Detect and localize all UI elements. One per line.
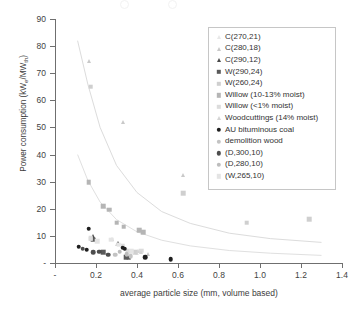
legend-item[interactable]: (W,265,10) [212,170,333,182]
legend-marker-square-icon [212,170,225,181]
legend-item-label: Woodcuttings (14% moist) [225,114,318,122]
data-point-square [114,221,119,226]
data-point-square [95,239,100,244]
y-axis-line [55,19,56,264]
legend-marker-circle-icon [212,159,225,170]
data-point-triangle [217,58,221,62]
legend-item-label: (D,300,10) [225,149,263,157]
data-point-circle [143,255,148,260]
data-point-circle [122,247,127,252]
legend-marker-circle-icon [212,124,225,135]
data-point-square [217,70,221,74]
legend-item-label: Willow (10-13% moist) [225,91,305,99]
y-tick-mark [50,19,55,20]
legend-marker-triangle-icon [212,31,225,42]
data-point-square [109,237,114,242]
y-tick-mark [50,182,55,183]
data-point-square [107,208,112,213]
y-tick-label: - [0,259,46,268]
legend-marker-triangle-icon [212,54,225,65]
legend-item[interactable]: W(290,24) [212,66,333,78]
legend-item[interactable]: W(260,24) [212,77,333,89]
x-tick-label: 0.8 [199,271,239,280]
legend-item[interactable]: Willow (<1% moist) [212,101,333,113]
y-tick-mark [50,73,55,74]
data-point-square [244,221,249,226]
legend-item-label: C(280,18) [225,44,261,52]
data-point-circle [117,250,122,255]
data-point-circle [106,252,111,257]
legend-item-label: W(260,24) [225,79,262,87]
legend-item[interactable]: (D,280,10) [212,159,333,171]
legend-item[interactable]: (D,300,10) [212,147,333,159]
x-tick-label: 0.2 [76,271,116,280]
legend-item[interactable]: demolition wood [212,135,333,147]
x-tick-label: 0.6 [158,271,198,280]
legend-marker-circle-icon [212,147,225,158]
x-tick-label: 0.4 [117,271,157,280]
data-point-triangle [217,35,221,39]
data-point-circle [217,128,221,132]
legend-marker-square-icon [212,78,225,89]
x-tick-mark [55,263,56,268]
legend-item-label: (D,280,10) [225,160,263,168]
x-tick-label: 1.2 [281,271,321,280]
x-tick-label: 1.4 [322,271,358,280]
legend-item[interactable]: C(270,21) [212,31,333,43]
data-point-square [217,105,221,109]
data-point-square [217,93,221,97]
x-tick-mark [178,263,179,268]
x-tick-label: - [35,271,75,280]
data-point-square [217,174,221,178]
data-point-circle [217,151,221,155]
y-tick-label: 10 [0,232,46,241]
legend-item-label: AU bituminous coal [225,126,294,134]
legend-item[interactable]: AU bituminous coal [212,124,333,136]
data-point-circle [97,249,102,254]
data-point-square [141,230,146,235]
data-point-triangle [139,250,143,254]
legend-item[interactable]: C(280,18) [212,43,333,55]
legend-item[interactable]: Woodcuttings (14% moist) [212,112,333,124]
data-point-triangle [217,116,221,120]
legend-item[interactable]: C(290,12) [212,54,333,66]
x-tick-label: 1.0 [240,271,280,280]
legend-item-label: W(290,24) [225,68,262,76]
data-point-square [130,249,135,254]
y-tick-mark [50,100,55,101]
data-point-triangle [217,47,221,51]
x-axis-line [55,263,343,264]
data-point-square [116,242,121,247]
x-tick-mark [301,263,302,268]
legend-marker-square-icon [212,101,225,112]
y-tick-mark [50,236,55,237]
data-point-circle [91,250,96,255]
data-point-square [89,84,94,89]
y-axis-title: Power consumption (kWe/MWth) [19,13,30,213]
chart-legend: C(270,21)C(280,18)C(290,12)W(290,24)W(26… [208,27,336,190]
data-point-circle [129,254,134,259]
data-point-circle [217,163,221,167]
y-tick-mark [50,46,55,47]
x-tick-mark [96,263,97,268]
data-point-square [87,180,92,185]
page-artifact [120,0,240,8]
data-point-square [181,191,186,196]
y-tick-mark [50,127,55,128]
legend-marker-circle-icon [212,136,225,147]
legend-marker-triangle-icon [212,112,225,123]
legend-item[interactable]: Willow (10-13% moist) [212,89,333,101]
data-point-square [101,204,106,209]
data-point-square [101,250,106,255]
data-point-square [89,236,94,241]
legend-item-label: Willow (<1% moist) [225,102,293,110]
data-point-circle [84,247,89,252]
data-point-circle [124,252,129,257]
x-tick-mark [137,263,138,268]
data-point-circle [217,139,221,143]
legend-marker-square-icon [212,89,225,100]
x-tick-mark [219,263,220,268]
legend-item-label: C(290,12) [225,56,261,64]
chart-root: 908070605040302010- -0.20.40.60.81.01.21… [0,0,358,314]
y-tick-mark [50,209,55,210]
